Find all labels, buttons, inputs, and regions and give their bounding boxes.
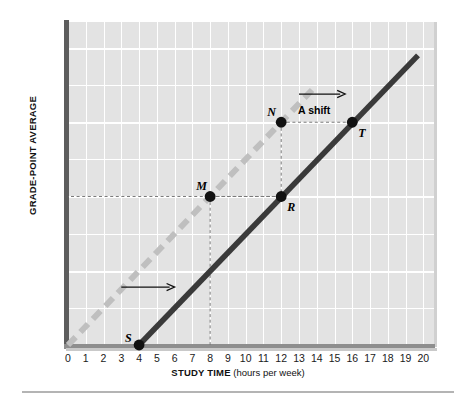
gridline-horizontal <box>68 48 434 50</box>
gridline-horizontal <box>68 159 434 160</box>
point-label-M: M <box>196 179 207 194</box>
plot-right-shadow <box>434 22 437 347</box>
gridline-horizontal <box>68 196 434 198</box>
point-label-N: N <box>267 105 276 120</box>
gridline-vertical <box>299 22 300 345</box>
gridline-horizontal <box>68 85 434 86</box>
gridline-vertical <box>246 22 247 345</box>
gridline-vertical <box>210 22 211 345</box>
a-shift-annotation-label: A shift <box>298 104 330 116</box>
gridline-vertical <box>139 22 140 345</box>
gridline-vertical <box>352 22 353 345</box>
gridline-vertical <box>86 22 87 345</box>
gridline-vertical <box>104 22 105 345</box>
gridline-vertical <box>406 22 407 345</box>
x-axis-title-unit: (hours per week) <box>233 367 304 378</box>
gridline-horizontal <box>68 122 434 124</box>
y-axis-title: GRADE-POINT AVERAGE <box>27 56 38 256</box>
gridline-vertical <box>175 22 176 345</box>
gridline-vertical <box>388 22 389 345</box>
y-axis-line <box>64 20 69 347</box>
plot-area <box>68 22 434 345</box>
x-axis-tick-20: 20 <box>413 352 433 364</box>
gridline-vertical <box>121 22 122 345</box>
gridline-vertical <box>370 22 371 345</box>
gridline-horizontal <box>68 234 434 235</box>
figure-container: 4.0(= A)3.53.0(= B)2.52.0(= C)1.51.0(= D… <box>0 0 476 397</box>
point-label-S: S <box>125 331 132 346</box>
gridline-vertical <box>157 22 158 345</box>
gridline-vertical <box>317 22 318 345</box>
x-axis-title: STUDY TIME (hours per week) <box>0 367 476 378</box>
gridline-vertical <box>228 22 229 345</box>
gridline-vertical <box>281 22 282 345</box>
point-label-R: R <box>287 200 295 215</box>
point-label-T: T <box>358 126 365 141</box>
gridline-vertical <box>423 22 424 345</box>
x-axis-shadow <box>66 348 437 351</box>
x-axis-title-main: STUDY TIME <box>171 367 230 378</box>
gridline-vertical <box>192 22 193 345</box>
gridline-horizontal <box>68 271 434 273</box>
bottom-divider <box>22 391 454 393</box>
gridline-vertical <box>335 22 336 345</box>
gridline-horizontal <box>68 308 434 309</box>
gridline-vertical <box>263 22 264 345</box>
